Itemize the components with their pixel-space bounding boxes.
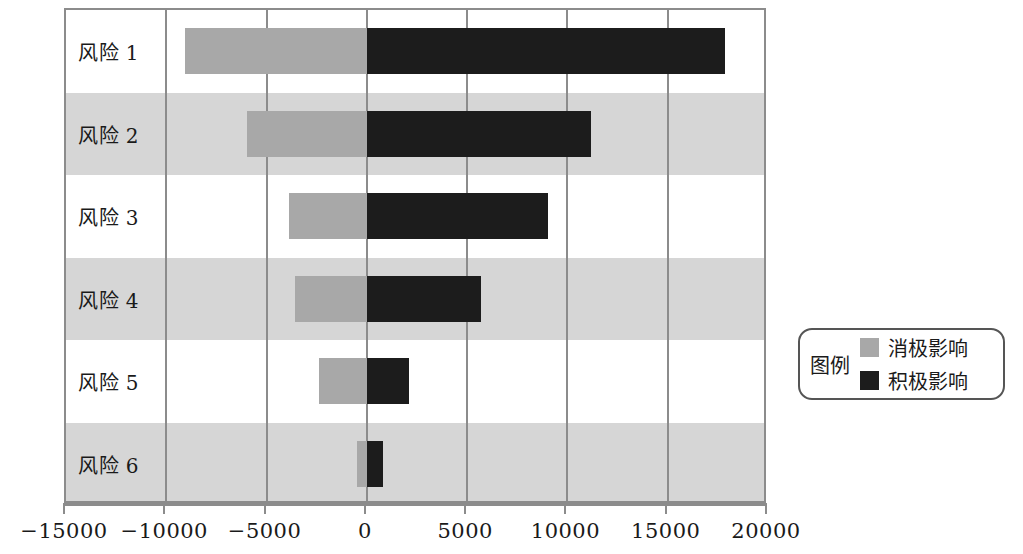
category-label: 风险 6 xyxy=(78,450,198,479)
gridline xyxy=(466,10,468,501)
category-label: 风险 2 xyxy=(78,120,198,149)
legend-swatch-icon xyxy=(860,371,879,390)
x-axis-tick-label: 10000 xyxy=(531,519,600,543)
bar-negative xyxy=(295,276,367,322)
bar-positive xyxy=(367,111,592,157)
bar-positive xyxy=(367,193,549,239)
x-axis-tick-label: −10000 xyxy=(121,519,208,543)
bar-positive xyxy=(367,441,383,487)
category-label: 风险 3 xyxy=(78,202,198,231)
legend-entry-group: 消极影响积极影响 xyxy=(860,333,968,395)
bar-negative xyxy=(319,358,367,404)
x-axis-tick xyxy=(765,503,767,514)
x-axis-tick-label: −15000 xyxy=(20,519,107,543)
x-axis-tick-label: 5000 xyxy=(437,519,492,543)
x-axis-tick xyxy=(564,503,566,514)
x-axis-tick xyxy=(464,503,466,514)
legend-entry: 消极影响 xyxy=(860,333,968,362)
legend-title: 图例 xyxy=(810,350,850,379)
zero-line xyxy=(366,10,368,501)
x-axis-line xyxy=(64,503,766,506)
x-axis-tick xyxy=(364,503,366,514)
gridline xyxy=(165,10,167,501)
gridline xyxy=(266,10,268,501)
category-label: 风险 5 xyxy=(78,367,198,396)
gridline xyxy=(667,10,669,501)
legend-entry: 积极影响 xyxy=(860,366,968,395)
bar-positive xyxy=(367,28,725,74)
plot-area: 风险 1风险 2风险 3风险 4风险 5风险 6 xyxy=(64,8,766,503)
bar-negative xyxy=(247,111,367,157)
x-axis-tick-label: 15000 xyxy=(631,519,700,543)
legend: 图例 消极影响积极影响 xyxy=(798,328,1005,400)
x-axis-tick xyxy=(163,503,165,514)
category-label: 风险 4 xyxy=(78,285,198,314)
x-axis-tick-label: −5000 xyxy=(228,519,302,543)
category-label: 风险 1 xyxy=(78,37,198,66)
bar-positive xyxy=(367,276,481,322)
bar-negative xyxy=(289,193,367,239)
bar-positive xyxy=(367,358,409,404)
x-axis-tick-label: 20000 xyxy=(731,519,800,543)
tornado-chart: 风险 1风险 2风险 3风险 4风险 5风险 6 −15000−10000−50… xyxy=(0,0,1023,554)
x-axis-tick-label: 0 xyxy=(358,519,372,543)
x-axis-tick xyxy=(665,503,667,514)
legend-label: 积极影响 xyxy=(888,366,968,395)
legend-swatch-icon xyxy=(860,338,879,357)
legend-label: 消极影响 xyxy=(888,333,968,362)
x-axis-tick xyxy=(264,503,266,514)
x-axis-tick xyxy=(63,503,65,514)
bar-negative xyxy=(357,441,367,487)
bar-negative xyxy=(185,28,367,74)
gridline xyxy=(566,10,568,501)
